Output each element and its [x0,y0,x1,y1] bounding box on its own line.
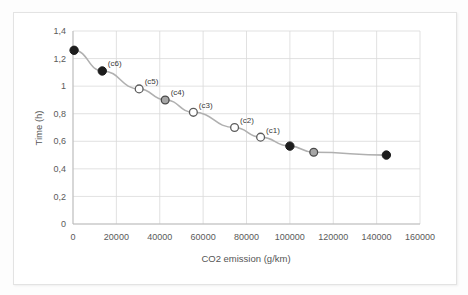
y-tick-label: 1,4 [53,26,66,36]
x-tick-label: 120000 [318,232,348,242]
data-point-open [257,133,265,141]
data-point-label: (c1) [266,126,280,135]
scanned-page-background: 0200004000060000800001000001200001400001… [0,0,468,295]
y-tick-label: 1 [61,81,66,91]
data-point-open [189,108,197,116]
y-tick-label: 1,2 [53,54,66,64]
x-tick-label: 100000 [275,232,305,242]
x-tick-label: 40000 [147,232,172,242]
x-tick-labels: 0200004000060000800001000001200001400001… [70,232,435,242]
data-point-labels: (c6)(c5)(c4)(c3)(c2)(c1) [108,59,280,134]
data-point-label: (c6) [108,59,122,68]
chart-figure: 0200004000060000800001000001200001400001… [0,0,468,295]
data-point-filled [382,151,390,159]
data-point-label: (c4) [171,88,185,97]
data-point-gray [161,96,169,104]
data-point-open [135,85,143,93]
data-point-filled [98,67,106,75]
chart-svg: 0200004000060000800001000001200001400001… [0,0,468,295]
x-tick-label: 160000 [405,232,435,242]
x-gridlines [73,31,420,224]
y-tick-label: 0,4 [53,164,66,174]
y-tick-labels: 00,20,40,60,811,21,4 [53,26,66,229]
y-tick-label: 0,6 [53,136,66,146]
data-point-gray [310,148,318,156]
data-point-label: (c2) [240,116,254,125]
x-tick-label: 60000 [191,232,216,242]
data-point-label: (c5) [145,77,159,86]
y-tick-label: 0,8 [53,109,66,119]
y-axis-title: Time (h) [33,110,44,145]
data-point-filled [70,46,78,54]
x-tick-label: 140000 [362,232,392,242]
x-tick-label: 80000 [234,232,259,242]
data-point-open [231,124,239,132]
y-tick-label: 0,2 [53,192,66,202]
x-tick-label: 20000 [104,232,129,242]
x-axis-title: CO2 emission (g/km) [201,253,290,264]
x-tick-label: 0 [70,232,75,242]
data-point-label: (c3) [199,101,213,110]
y-tick-label: 0 [61,219,66,229]
data-point-filled [286,142,294,150]
